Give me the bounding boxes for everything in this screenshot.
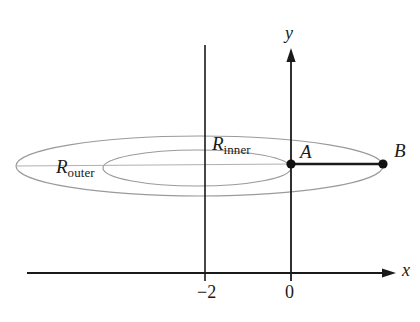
point-a-marker [286,159,295,168]
region-label-r-outer-subscript: outer [68,165,95,180]
ellipse-r-inner [103,150,291,186]
region-label-r-inner-symbol: R [212,133,224,154]
y-axis-arrowhead [286,48,295,62]
region-label-r-outer: Router [56,157,95,176]
y-axis-label: y [285,24,293,42]
x-axis-arrowhead [382,268,396,277]
x-tick-label-neg2: −2 [197,283,216,301]
region-label-r-inner: Rinner [212,134,251,153]
x-axis-label: x [402,261,410,279]
point-a-label: A [300,142,312,161]
point-b-label: B [394,141,406,160]
x-tick-label-zero: 0 [285,283,294,301]
point-b-marker [378,159,387,168]
region-label-r-outer-symbol: R [56,156,68,177]
region-label-r-inner-subscript: inner [224,142,251,157]
math-figure: Router Rinner A B x y −2 0 [0,0,420,322]
